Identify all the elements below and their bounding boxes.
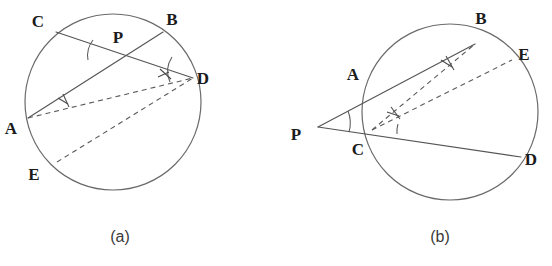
right-angle-mark-b-1 bbox=[441, 56, 454, 70]
dashed-c-b-b bbox=[372, 44, 475, 130]
point-label-d-b: D bbox=[525, 150, 537, 169]
right-angle-mark-a-1 bbox=[58, 94, 69, 107]
point-label-c-b: C bbox=[352, 140, 364, 159]
angle-arc-at-c-b bbox=[397, 124, 398, 134]
point-label-e-b: E bbox=[518, 45, 529, 64]
point-label-p-a: P bbox=[113, 28, 123, 47]
secant-p-c-d-b bbox=[318, 127, 521, 157]
panel-b: B E A P C D (b) bbox=[291, 9, 538, 245]
point-label-p-b: P bbox=[291, 125, 301, 144]
dashed-c-e-b bbox=[372, 60, 512, 130]
point-label-b-b: B bbox=[475, 9, 486, 28]
dashed-e-d-a bbox=[57, 78, 193, 162]
point-label-d-a: D bbox=[197, 69, 209, 88]
geometry-figure-svg: C B P D A E (a) bbox=[0, 0, 552, 266]
chord-c-d-a bbox=[56, 32, 193, 78]
dashed-a-d-a bbox=[28, 78, 193, 118]
panel-caption-a: (a) bbox=[110, 228, 130, 245]
geometry-figure-root: C B P D A E (a) bbox=[0, 0, 552, 266]
angle-arc-at-p-b bbox=[348, 111, 350, 132]
point-label-c-a: C bbox=[32, 12, 44, 31]
panel-caption-b: (b) bbox=[430, 228, 450, 245]
right-angle-mark-b-2 bbox=[387, 107, 400, 119]
panel-a: C B P D A E (a) bbox=[5, 10, 209, 245]
point-label-a-a: A bbox=[5, 119, 18, 138]
point-label-a-b: A bbox=[347, 65, 360, 84]
point-label-b-a: B bbox=[166, 10, 177, 29]
point-label-e-a: E bbox=[28, 165, 39, 184]
